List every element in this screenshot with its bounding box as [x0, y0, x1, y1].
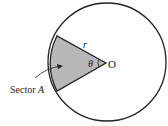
sector-diagram: r θ O Sector A [0, 0, 168, 126]
angle-label: θ [88, 58, 93, 69]
center-label: O [108, 58, 116, 70]
sector-label: Sector A [10, 84, 45, 95]
sector-label-prefix: Sector [10, 84, 38, 95]
sector-label-name: A [37, 84, 45, 95]
diagram-canvas: r θ O Sector A [0, 0, 168, 126]
radius-label: r [83, 39, 87, 50]
